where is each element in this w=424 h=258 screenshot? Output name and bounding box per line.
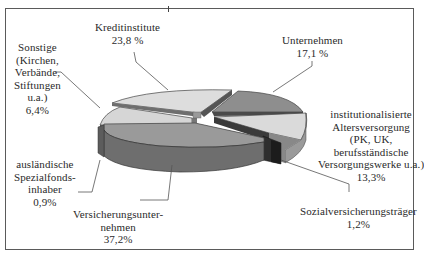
- label-text: Kreditinstitute: [95, 21, 160, 34]
- label-text: (PK, UK,: [318, 133, 424, 146]
- label-text: Versorgungswerke u.a.): [318, 158, 424, 171]
- label-text: u.a.): [14, 91, 61, 104]
- label-value: 0,9%: [14, 196, 76, 209]
- label-text: Unternehmen: [282, 34, 343, 47]
- label-text: Stiftungen: [14, 79, 61, 92]
- label-altersversorgung: institutionalisierte Altersversorgung (P…: [318, 108, 424, 183]
- label-value: 6,4%: [14, 104, 61, 117]
- label-text: Sozialversicherungsträger: [300, 205, 417, 218]
- label-unternehmen: Unternehmen 17,1 %: [282, 34, 343, 59]
- label-text: Sonstige: [14, 41, 61, 54]
- label-versicherungsunternehmen: Versicherungsunter- nehmen 37,2%: [73, 208, 163, 246]
- label-value: 13,3%: [318, 171, 424, 184]
- label-text: nehmen: [73, 221, 163, 234]
- leader-sonstige: [55, 72, 100, 108]
- label-value: 37,2%: [73, 233, 163, 246]
- label-text: Altersversorgung: [318, 121, 424, 134]
- label-text: berufsständische: [318, 146, 424, 159]
- label-text: Versicherungsunter-: [73, 208, 163, 221]
- slice-auslaendische: [98, 125, 104, 157]
- label-value: 1,2%: [300, 218, 417, 231]
- label-sonstige: Sonstige (Kirchen, Verbände, Stiftungen …: [14, 41, 61, 116]
- label-auslaendische: ausländische Spezialfonds- inhaber 0,9%: [14, 158, 76, 208]
- label-text: institutionalisierte: [318, 108, 424, 121]
- label-text: inhaber: [14, 183, 76, 196]
- label-value: 23,8 %: [95, 34, 160, 47]
- label-sozialversicherung: Sozialversicherungsträger 1,2%: [300, 205, 417, 230]
- leader-kredit: [134, 52, 168, 90]
- leader-unternehmen: [273, 61, 312, 92]
- label-text: Spezialfonds-: [14, 171, 76, 184]
- label-kreditinstitute: Kreditinstitute 23,8 %: [95, 21, 160, 46]
- leader-auslaendische: [78, 160, 100, 192]
- label-text: (Kirchen,: [14, 54, 61, 67]
- label-text: Verbände,: [14, 66, 61, 79]
- label-value: 17,1 %: [282, 47, 343, 60]
- label-text: ausländische: [14, 158, 76, 171]
